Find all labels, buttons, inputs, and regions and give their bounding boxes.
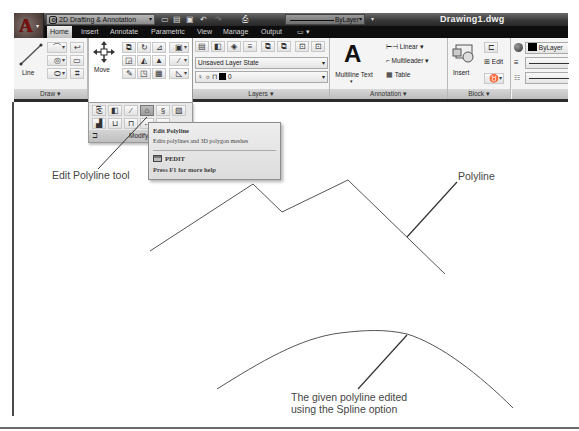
tab-view[interactable]: View	[194, 26, 215, 38]
layer-match-icon[interactable]: ≡	[243, 41, 257, 52]
layer-off-icon[interactable]: ⧉	[261, 41, 275, 52]
current-layer-value: 0	[228, 73, 232, 80]
pin-icon[interactable]: ⊐	[92, 130, 98, 142]
layer-property-dropdown[interactable]: ByLayer ▾	[285, 14, 365, 25]
tab-output[interactable]: Output	[258, 26, 285, 38]
gear-icon: ⚙	[49, 16, 57, 24]
tooltip-command: PEDIT	[153, 154, 276, 164]
circle-icon[interactable]: ◎	[47, 55, 67, 66]
color-dropdown[interactable]: ByLayer	[525, 42, 568, 54]
multiline-text-button[interactable]: A Multiline Text ▾	[334, 40, 374, 84]
tab-insert[interactable]: Insert	[78, 26, 102, 38]
tooltip-title: Edit Polyline	[153, 126, 276, 136]
block-attribute-icon[interactable]: ♉	[484, 73, 504, 84]
align-icon[interactable]: ⊓	[124, 118, 138, 129]
command-icon	[153, 155, 162, 162]
ellipse-icon[interactable]: ⬭	[47, 68, 67, 79]
chevron-down-icon: ▾	[350, 78, 353, 84]
lineweight-dropdown[interactable]	[525, 57, 568, 69]
tab-annotate[interactable]: Annotate	[107, 26, 141, 38]
multileader-button[interactable]: ⌐ Multileader ▾	[386, 56, 429, 66]
modify-panel-label[interactable]: Modify	[129, 130, 148, 142]
join-icon[interactable]: ◧	[108, 105, 122, 116]
tab-manage[interactable]: Manage	[220, 26, 251, 38]
hatch-icon[interactable]: ⌗	[70, 68, 84, 79]
layer-isolate-icon[interactable]: ◈	[227, 41, 241, 52]
block-edit-button[interactable]: ⊞ Edit	[484, 57, 503, 67]
layer-properties-icon[interactable]: ▤	[195, 41, 209, 52]
trim-icon[interactable]: ⊿	[152, 42, 166, 53]
layers-panel-label[interactable]: Layers ▾	[193, 89, 329, 99]
edit-polyline-tooltip: Edit Polyline Edits polylines and 3D pol…	[148, 122, 281, 180]
open-icon[interactable]: ▭	[160, 15, 169, 24]
ribbon-bottom-edge	[193, 99, 568, 102]
break-icon[interactable]: ⎘	[92, 105, 106, 116]
edit-hatch-icon[interactable]: ▨	[172, 105, 186, 116]
block-panel-label[interactable]: Block ▾	[448, 89, 510, 99]
layer-unlock-icon[interactable]: ⊡	[311, 41, 325, 52]
edit-polyline-icon[interactable]: ⌂	[140, 105, 154, 116]
move-button[interactable]: Move	[91, 40, 119, 78]
chevron-down-icon: ▾	[322, 72, 325, 82]
leader-spline	[358, 335, 407, 389]
save-as-icon[interactable]: ▣	[185, 15, 194, 24]
redo-icon[interactable]: ↷	[214, 15, 223, 24]
workspace-dropdown[interactable]: ⚙ 2D Drafting & Annotation ▾	[46, 14, 155, 25]
annotation-panel-label[interactable]: Annotation ▾	[330, 89, 447, 99]
properties-panel-label[interactable]	[512, 89, 568, 99]
line-button[interactable]: Line	[16, 40, 44, 82]
insert-block-icon	[451, 41, 477, 65]
lengthen-icon[interactable]: ⁄	[124, 105, 138, 116]
multiline-text-label: Multiline Text	[332, 71, 376, 78]
figure-bottom-rule	[0, 427, 579, 429]
rectangle-icon[interactable]: ▭	[70, 55, 84, 66]
application-menu-button[interactable]: A ▾	[14, 13, 44, 40]
layer-dropdown[interactable]: ♀ ☼ ⊓ 0 ▾	[195, 71, 328, 83]
linear-dimension-button[interactable]: ⊢⊣ Linear ▾	[386, 42, 424, 52]
polyline-icon[interactable]: ↩	[70, 42, 84, 53]
polyline-object[interactable]	[150, 180, 445, 274]
layer-state-icon[interactable]: ◧	[211, 41, 225, 52]
customize-quick-access-icon[interactable]: ▾	[368, 15, 377, 24]
save-icon[interactable]: ▤	[172, 15, 181, 24]
explode-icon[interactable]: ✎	[122, 68, 136, 79]
block-panel: Insert ⊏ ⊞ Edit ♉ Block ▾	[448, 38, 511, 99]
erase-icon[interactable]: ▣	[169, 42, 189, 53]
tab-parametric[interactable]: Parametric	[148, 26, 188, 38]
table-button[interactable]: ▦ Table	[386, 70, 410, 80]
chamfer-icon[interactable]: ◺	[169, 68, 189, 79]
layer-lock-icon[interactable]: ⊡	[295, 41, 309, 52]
break-at-point-icon[interactable]: ⊔	[108, 118, 122, 129]
insert-block-button[interactable]: Insert	[451, 41, 479, 81]
spline-object[interactable]	[217, 331, 513, 409]
fillet-icon[interactable]: ⁄	[169, 55, 189, 66]
properties-panel: ByLayer ≡ ☷	[512, 38, 568, 99]
label-spline-line1: The given polyline edited	[291, 391, 407, 403]
plot-icon[interactable]: ⎙	[240, 15, 249, 24]
arc-icon[interactable]: ⌒	[47, 42, 67, 53]
line-sample	[529, 78, 569, 79]
linetype-dropdown[interactable]	[525, 72, 568, 84]
line-icon	[16, 40, 44, 68]
leader-polyline	[407, 182, 457, 237]
scale-icon[interactable]: ◲	[122, 55, 136, 66]
offset-icon[interactable]: ◳	[137, 68, 151, 79]
copy-icon[interactable]: ⧉	[122, 42, 136, 53]
edit-spline-icon[interactable]: §	[156, 105, 170, 116]
ribbon-minimize-toggle-icon[interactable]: ▭ ▾	[294, 26, 313, 38]
undo-icon[interactable]: ↶	[199, 15, 208, 24]
layer-state-dropdown[interactable]: Unsaved Layer State ▾	[195, 57, 328, 69]
array-icon[interactable]: ▦	[152, 68, 166, 79]
tooltip-description: Edits polylines and 3D polygon meshes	[153, 136, 276, 146]
create-block-icon[interactable]: ⊏	[484, 42, 498, 53]
tooltip-divider	[153, 150, 276, 151]
rotate-icon[interactable]: ↻	[137, 42, 151, 53]
draw-panel-label[interactable]: Draw ▾	[14, 89, 87, 99]
mirror-icon[interactable]: ▲	[152, 55, 166, 66]
table-label: Table	[395, 71, 411, 78]
tab-home[interactable]: Home	[47, 26, 72, 38]
draw-order-icon[interactable]: ▟	[92, 118, 106, 129]
move-icon	[91, 40, 117, 64]
layer-freeze-icon[interactable]: ⧉	[277, 41, 291, 52]
stretch-icon[interactable]: ◭	[137, 55, 151, 66]
